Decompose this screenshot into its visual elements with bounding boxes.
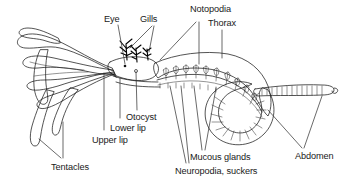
label-abdomen: Abdomen (295, 151, 334, 161)
notopodium (184, 65, 189, 78)
leader-tentacles (39, 139, 61, 158)
eye-marker (124, 65, 127, 68)
notopodium (194, 65, 199, 78)
anatomical-figure: Eye Gills Notopodia Thorax Otocyst Lower… (0, 0, 344, 182)
leader-neuropodia (181, 86, 189, 163)
tentacle-strand (19, 28, 60, 43)
leader-neuropodia (170, 86, 186, 163)
label-gills: Gills (140, 14, 158, 24)
tail-group (254, 85, 338, 96)
notopodia-group (164, 65, 258, 104)
leader-abdomen (268, 110, 302, 148)
head-group (108, 57, 160, 87)
tentacle-strand (17, 34, 113, 71)
label-otocyst: Otocyst (126, 112, 157, 122)
notopodium (174, 66, 179, 79)
leader-notopodia (160, 22, 196, 60)
notopodium (235, 78, 240, 90)
label-neuropodia-suckers: Neuropodia, suckers (175, 166, 258, 176)
tentacle-strand (27, 72, 114, 90)
leader-otocyst (136, 72, 137, 110)
label-mucous-glands: Mucous glands (190, 152, 251, 162)
tail-segments (262, 86, 322, 95)
tentacle-strand (30, 90, 54, 146)
tentacles-group (17, 28, 116, 146)
leader-lines (39, 22, 322, 163)
label-notopodia: Notopodia (190, 4, 232, 14)
gill-tuft (131, 45, 141, 62)
leader-mucous (205, 88, 216, 150)
tentacle-strand (52, 88, 78, 135)
label-tentacles: Tentacles (51, 162, 89, 172)
label-lower-lip: Lower lip (110, 123, 146, 133)
notopodium (204, 66, 209, 79)
neuropodia-group (160, 83, 216, 92)
label-eye: Eye (104, 14, 120, 24)
label-upper-lip: Upper lip (92, 135, 128, 145)
tentacle-strand (34, 50, 48, 104)
leader-mucous (194, 86, 202, 150)
leader-abdomen (304, 96, 322, 148)
label-thorax: Thorax (208, 18, 237, 28)
